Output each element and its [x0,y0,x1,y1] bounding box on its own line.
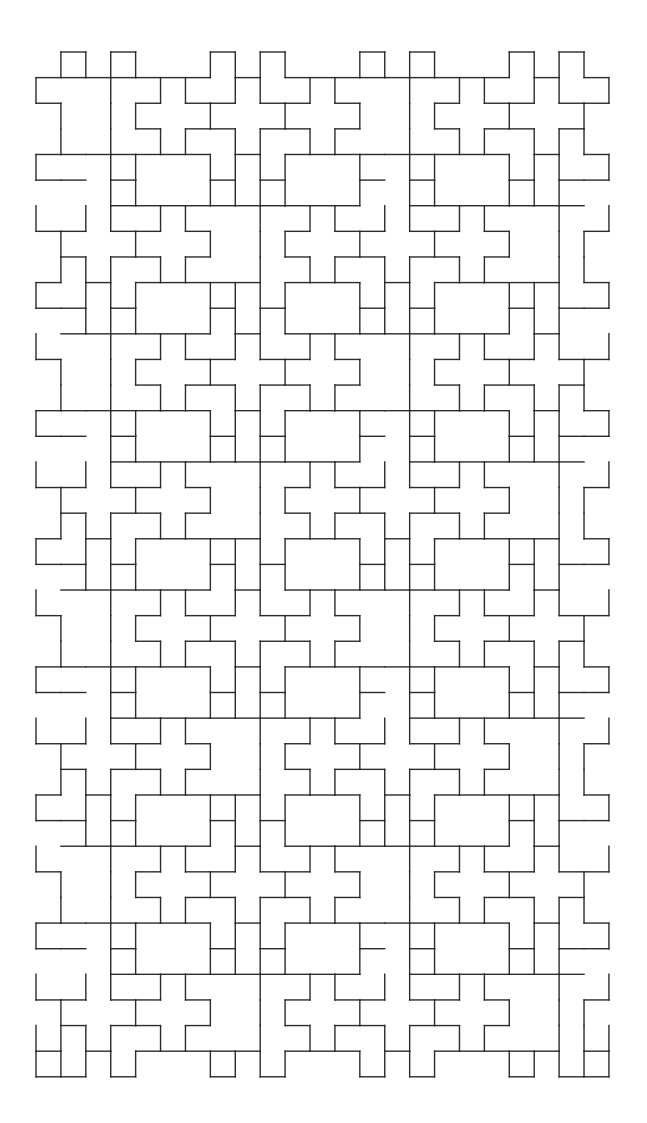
tiling-pattern [0,0,647,1123]
